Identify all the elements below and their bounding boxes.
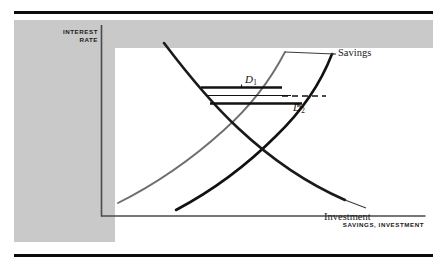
investment-leader-line: [345, 200, 366, 208]
d1-measure-letter: D: [245, 73, 253, 85]
d1-measure-subscript: 1: [253, 79, 257, 87]
d1-measure-label: D1: [245, 73, 257, 85]
bottom-rule: [14, 254, 433, 257]
top-rule: [14, 11, 433, 14]
figure-panel: INTEREST RATE SAVINGS, INVESTMENT Saving…: [14, 20, 433, 242]
d2-measure-label: D2: [293, 101, 305, 113]
y-axis-label: INTEREST RATE: [24, 28, 98, 44]
d2-measure-subscript: 2: [301, 107, 305, 115]
investment-curve: [164, 43, 345, 200]
x-axis-label: SAVINGS, INVESTMENT: [244, 221, 424, 229]
investment-curve-label: Investment: [324, 211, 371, 222]
d2-measure-letter: D: [293, 101, 301, 113]
savings-curve-initial: [118, 52, 285, 203]
figure-root: INTEREST RATE SAVINGS, INVESTMENT Saving…: [0, 0, 447, 270]
savings-curve-label: Savings: [338, 47, 371, 58]
savings-leader-line-initial: [285, 52, 334, 54]
